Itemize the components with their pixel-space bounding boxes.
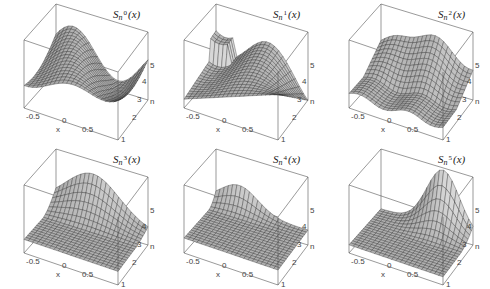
x-tick-label: 0.5 — [82, 125, 93, 134]
x-tick-label: 0.5 — [407, 125, 418, 134]
n-tick-label: 3 — [462, 240, 466, 249]
n-axis-label: n — [310, 242, 314, 251]
plot-title: Sn3(x) — [113, 153, 140, 167]
x-tick-label: 0.5 — [407, 270, 418, 279]
n-tick-label: 3 — [462, 95, 466, 104]
n-axis-label: n — [475, 97, 479, 106]
n-tick-label: 3 — [137, 95, 141, 104]
x-tick-label: 0 — [387, 261, 391, 270]
x-tick-label: 0.5 — [242, 125, 253, 134]
x-tick-label: 1 — [281, 135, 285, 144]
plot-title: Sn4(x) — [273, 153, 300, 167]
x-axis-label: x — [216, 125, 220, 134]
n-axis-label: n — [150, 242, 154, 251]
x-tick-label: 0.5 — [242, 270, 253, 279]
n-tick-label: 4 — [302, 222, 306, 231]
x-tick-label: -0.5 — [351, 112, 365, 121]
n-tick-label: 5 — [475, 61, 479, 70]
n-tick-label: 2 — [457, 113, 461, 122]
n-tick-label: 2 — [132, 113, 136, 122]
x-tick-label: -0.5 — [26, 257, 40, 266]
x-axis-label: x — [56, 270, 60, 279]
surface-plot-3: Sn3(x)-0.500.51x2345n — [0, 145, 163, 289]
plot-title: Sn0(x) — [113, 8, 140, 22]
x-tick-label: 0 — [62, 116, 66, 125]
n-axis-label: n — [475, 242, 479, 251]
x-tick-label: -0.5 — [186, 112, 200, 121]
x-tick-label: -0.5 — [26, 112, 40, 121]
n-axis-label: n — [310, 97, 314, 106]
surface-plot-1: Sn1(x)-0.500.51x2345n — [160, 0, 323, 144]
x-tick-label: 0.5 — [82, 270, 93, 279]
x-tick-label: 1 — [281, 280, 285, 289]
n-tick-label: 5 — [310, 206, 314, 215]
surface-plot-5: Sn5(x)-0.500.51x2345n — [325, 145, 488, 289]
n-tick-label: 5 — [310, 61, 314, 70]
n-tick-label: 4 — [142, 77, 146, 86]
n-tick-label: 3 — [137, 240, 141, 249]
x-tick-label: 0 — [62, 261, 66, 270]
n-tick-label: 2 — [132, 258, 136, 267]
n-tick-label: 5 — [150, 206, 154, 215]
n-tick-label: 2 — [457, 258, 461, 267]
n-axis-label: n — [150, 97, 154, 106]
n-tick-label: 3 — [297, 240, 301, 249]
n-tick-label: 5 — [475, 206, 479, 215]
x-tick-label: 1 — [446, 280, 450, 289]
x-axis-label: x — [381, 125, 385, 134]
n-tick-label: 4 — [467, 222, 471, 231]
x-tick-label: -0.5 — [351, 257, 365, 266]
x-tick-label: 1 — [446, 135, 450, 144]
x-tick-label: 0 — [222, 261, 226, 270]
plot-title: Sn5(x) — [438, 153, 465, 167]
n-tick-label: 2 — [292, 113, 296, 122]
n-tick-label: 3 — [297, 95, 301, 104]
x-axis-label: x — [381, 270, 385, 279]
x-axis-label: x — [56, 125, 60, 134]
x-tick-label: -0.5 — [186, 257, 200, 266]
x-axis-label: x — [216, 270, 220, 279]
n-tick-label: 2 — [292, 258, 296, 267]
x-tick-label: 1 — [121, 280, 125, 289]
x-tick-label: 1 — [121, 135, 125, 144]
n-tick-label: 5 — [150, 61, 154, 70]
n-tick-label: 4 — [142, 222, 146, 231]
n-tick-label: 4 — [467, 77, 471, 86]
surface-plot-2: Sn2(x)-0.500.51x2345n — [325, 0, 488, 144]
plot-title: Sn1(x) — [273, 8, 300, 22]
surface-plot-0: Sn0(x)-0.500.51x2345n — [0, 0, 163, 144]
n-tick-label: 4 — [302, 77, 306, 86]
surface-plot-4: Sn4(x)-0.500.51x2345n — [160, 145, 323, 289]
plot-title: Sn2(x) — [438, 8, 465, 22]
x-tick-label: 0 — [387, 116, 391, 125]
x-tick-label: 0 — [222, 116, 226, 125]
